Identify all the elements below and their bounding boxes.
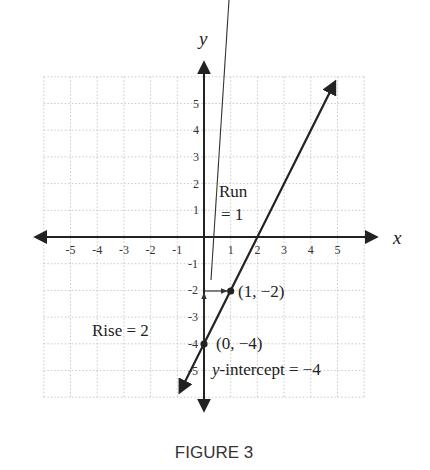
x-tick-label: -1 [172, 243, 182, 257]
y-tick-label: 3 [193, 150, 199, 164]
x-tick-label: 1 [228, 243, 234, 257]
y-tick-label: -4 [188, 337, 198, 351]
y-tick-label: -1 [188, 257, 198, 271]
y-tick-label: 2 [193, 177, 199, 191]
point-1-neg2 [227, 287, 234, 294]
y-axis-label: y [197, 28, 208, 49]
x-tick-label: 5 [335, 243, 341, 257]
point-0-neg4 [200, 340, 207, 347]
figure-caption: FIGURE 3 [175, 443, 253, 462]
run-value-label: = 1 [221, 205, 243, 224]
x-tick-label: 3 [281, 243, 287, 257]
x-tick-label: -3 [119, 243, 129, 257]
y-tick-label: 1 [193, 203, 199, 217]
point-label-0-neg4: (0, −4) [216, 334, 262, 353]
x-tick-label: -4 [92, 243, 102, 257]
x-tick-label: 2 [254, 243, 260, 257]
x-tick-label: -2 [146, 243, 156, 257]
y-intercept-label: y-intercept = −4 [210, 360, 321, 379]
y-tick-label: 4 [193, 123, 199, 137]
x-tick-label: 4 [308, 243, 314, 257]
slope-chart: x y -5-4-3-2-112345 54321-1-2-3-4-5 (1, … [0, 0, 430, 470]
y-tick-label: -3 [188, 310, 198, 324]
x-axis-label: x [392, 227, 402, 248]
x-tick-label: -5 [66, 243, 76, 257]
run-label: Run [219, 182, 248, 201]
y-tick-label: -2 [188, 283, 198, 297]
y-tick-label: 5 [193, 97, 199, 111]
rise-label: Rise = 2 [92, 321, 149, 340]
point-label-1-neg2: (1, −2) [238, 282, 284, 301]
